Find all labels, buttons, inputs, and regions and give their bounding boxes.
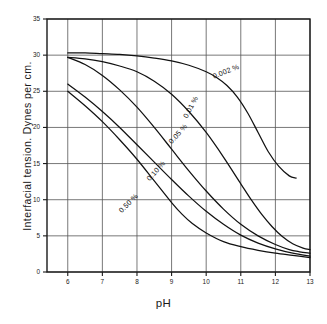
x-tick-label-6: 12 xyxy=(267,278,283,285)
axis-tick-marks xyxy=(43,19,310,276)
y-tick-label-7: 35 xyxy=(26,15,40,22)
x-axis-title: pH xyxy=(0,297,327,309)
x-tick-label-2: 8 xyxy=(129,278,145,285)
x-tick-label-0: 6 xyxy=(60,278,76,285)
plot-frame xyxy=(47,19,310,272)
x-tick-label-4: 10 xyxy=(198,278,214,285)
x-tick-label-7: 13 xyxy=(302,278,318,285)
y-axis-title: Interfacial tension. Dynes per cm. xyxy=(21,26,33,266)
x-tick-label-3: 9 xyxy=(164,278,180,285)
x-tick-label-1: 7 xyxy=(94,278,110,285)
y-tick-label-0: 0 xyxy=(26,268,40,275)
curve-series-2 xyxy=(68,57,310,253)
chart-figure: 05101520253035 678910111213 0.002 %0.01 … xyxy=(0,0,327,324)
gridlines xyxy=(47,19,310,272)
data-curves xyxy=(68,53,310,258)
x-tick-label-5: 11 xyxy=(233,278,249,285)
